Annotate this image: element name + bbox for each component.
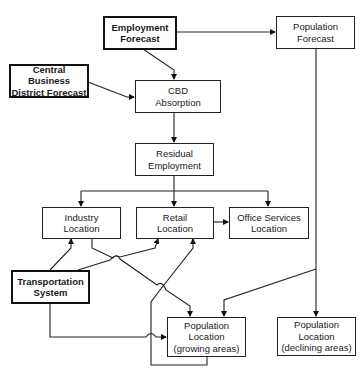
node-cbd-absorption: CBD Absorption [135,80,221,113]
node-label: Retail [163,212,187,224]
node-label: Location [157,223,193,235]
node-office-services-location: Office Services Location [229,207,309,239]
node-label: Employment [111,22,168,34]
node-label: (growing areas) [174,343,240,355]
node-label: Office Services [237,212,301,224]
node-label: Forecast [120,33,160,45]
node-label: District Forecast [12,87,87,99]
node-label: Residual [156,148,193,160]
edge-population-forecast-to-growing [224,269,316,316]
edge-industry-to-growing [92,238,190,316]
edge-transport-to-retail [78,239,158,270]
node-label: Central Business [11,64,87,87]
node-label: Forecast [297,33,334,45]
node-residual-employment: Residual Employment [135,143,214,176]
node-label: CBD [168,85,188,97]
edge-cbd-forecast-to-absorption [88,82,134,97]
node-population-location-growing: Population Location (growing areas) [167,317,246,357]
node-industry-location: Industry Location [42,207,121,239]
node-label: Employment [148,160,201,172]
node-label: Population [293,21,338,33]
node-retail-location: Retail Location [136,207,214,239]
node-label: Absorption [155,97,200,109]
node-population-location-declining: Population Location (declining areas) [277,317,356,356]
node-transportation-system: Transportation System [11,270,90,304]
node-label: Transportation [17,276,84,288]
node-label: Location [251,223,287,235]
edge-transport-to-growing [50,303,166,337]
node-label: Population [294,319,339,331]
node-label: Location [299,331,335,343]
node-employment-forecast: Employment Forecast [103,16,177,50]
node-label: Population [184,320,229,332]
node-cbd-forecast: Central Business District Forecast [9,64,89,98]
edge-transport-to-industry [50,239,71,270]
node-label: Industry [65,212,99,224]
node-population-forecast: Population Forecast [276,16,355,49]
edge-employment-to-cbd-absorption [143,49,174,79]
node-label: Location [64,223,100,235]
node-label: Location [189,331,225,343]
node-label: System [34,287,68,299]
node-label: (declining areas) [281,342,351,354]
